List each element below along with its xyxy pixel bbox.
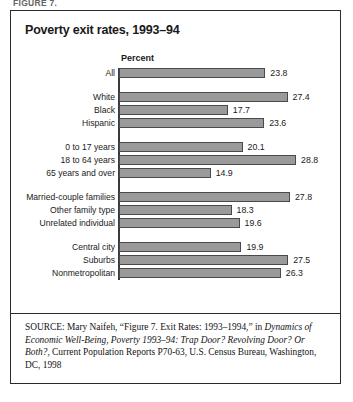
- figure-frame: Poverty exit rates, 1993–94 Percent All2…: [10, 10, 341, 384]
- bar-value-label: 27.8: [295, 192, 312, 202]
- bar-value-label: 20.1: [248, 142, 265, 152]
- figure-caption: FIGURE 7.: [13, 0, 57, 8]
- bar-value-label: 14.9: [216, 168, 233, 178]
- bar: [119, 205, 232, 215]
- bar: [119, 155, 296, 165]
- bar: [119, 105, 228, 115]
- bar-row: Black17.7: [11, 105, 338, 115]
- bar: [119, 68, 265, 78]
- bar-chart: Percent All23.8White27.4Black17.7Hispani…: [11, 53, 338, 308]
- source-text-part2: , Current Population Reports P70-63, U.S…: [25, 347, 316, 370]
- bar-category-label: Nonmetropolitan: [15, 268, 115, 278]
- bar: [119, 92, 288, 102]
- bar-row: Hispanic23.6: [11, 118, 338, 128]
- bar: [119, 192, 290, 202]
- bar: [119, 268, 281, 278]
- source-prefix: SOURCE:: [25, 322, 65, 332]
- bar-value-label: 17.7: [233, 105, 250, 115]
- bar: [119, 218, 240, 228]
- bar: [119, 142, 243, 152]
- bar-value-label: 28.8: [301, 155, 318, 165]
- source-text-part1: Mary Naifeh, “Figure 7. Exit Rates: 1993…: [65, 322, 265, 332]
- bar-category-label: Suburbs: [15, 255, 115, 265]
- bar-category-label: Central city: [15, 242, 115, 252]
- bar-row: 18 to 64 years28.8: [11, 155, 338, 165]
- bar-value-label: 23.8: [270, 68, 287, 78]
- bar: [119, 242, 241, 252]
- bar-row: Unrelated individual19.6: [11, 218, 338, 228]
- bar-category-label: Hispanic: [15, 118, 115, 128]
- bar-category-label: Unrelated individual: [15, 218, 115, 228]
- bar-row: All23.8: [11, 68, 338, 78]
- bar-value-label: 18.3: [237, 205, 254, 215]
- bar-category-label: Black: [15, 105, 115, 115]
- bar-category-label: White: [15, 92, 115, 102]
- bar-category-label: Other family type: [15, 205, 115, 215]
- bar-row: Married-couple families27.8: [11, 192, 338, 202]
- bar-value-label: 26.3: [286, 268, 303, 278]
- bar-value-label: 19.6: [245, 218, 262, 228]
- bar: [119, 118, 264, 128]
- bar-category-label: 0 to 17 years: [15, 142, 115, 152]
- bar-row: Suburbs27.5: [11, 255, 338, 265]
- bar-row: 0 to 17 years20.1: [11, 142, 338, 152]
- bar-value-label: 27.4: [293, 92, 310, 102]
- bar-row: Central city19.9: [11, 242, 338, 252]
- bar-category-label: Married-couple families: [15, 192, 115, 202]
- chart-title: Poverty exit rates, 1993–94: [25, 23, 179, 37]
- bar: [119, 168, 211, 178]
- bar-value-label: 23.6: [269, 118, 286, 128]
- axis-title-percent: Percent: [121, 53, 154, 63]
- bar-row: Nonmetropolitan26.3: [11, 268, 338, 278]
- bar: [119, 255, 288, 265]
- bar-value-label: 27.5: [293, 255, 310, 265]
- bar-category-label: 65 years and over: [15, 168, 115, 178]
- bar-row: Other family type18.3: [11, 205, 338, 215]
- bar-value-label: 19.9: [246, 242, 263, 252]
- bar-row: 65 years and over14.9: [11, 168, 338, 178]
- bar-row: White27.4: [11, 92, 338, 102]
- bar-category-label: All: [15, 68, 115, 78]
- source-divider: [11, 313, 340, 314]
- bar-category-label: 18 to 64 years: [15, 155, 115, 165]
- source-note: SOURCE: Mary Naifeh, “Figure 7. Exit Rat…: [25, 321, 327, 371]
